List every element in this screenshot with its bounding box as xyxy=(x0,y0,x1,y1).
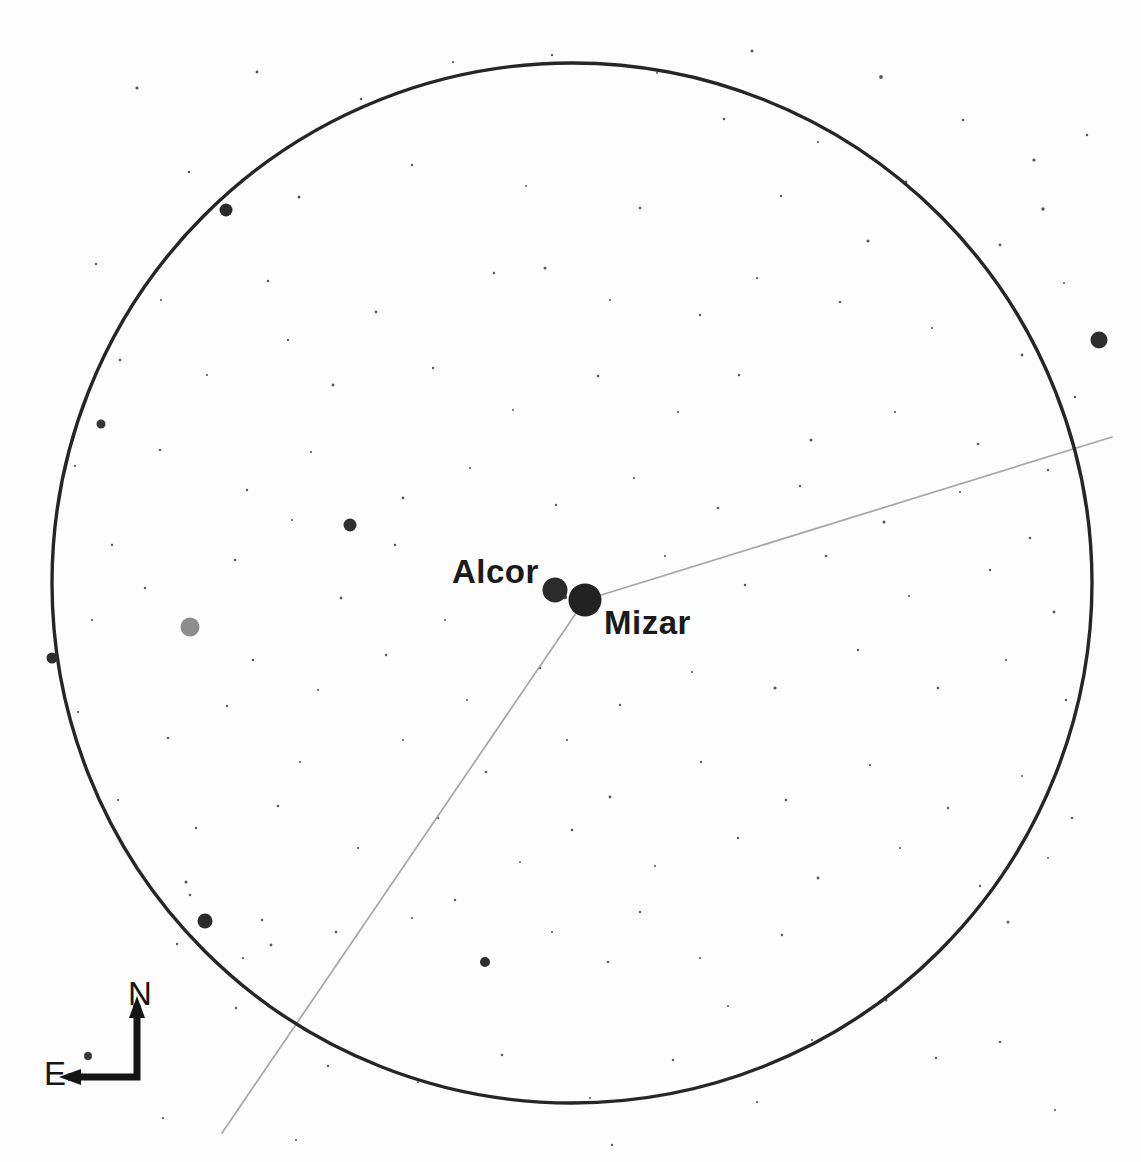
background-star xyxy=(611,1144,613,1146)
background-star xyxy=(937,687,940,690)
background-star xyxy=(751,50,754,53)
background-star xyxy=(979,885,981,887)
background-star xyxy=(512,409,514,411)
background-star xyxy=(619,704,621,706)
background-star xyxy=(781,934,783,936)
background-star xyxy=(327,1065,329,1067)
background-star xyxy=(375,311,378,314)
background-star xyxy=(810,439,813,442)
background-star xyxy=(159,449,162,452)
background-star xyxy=(699,314,701,316)
star-label-mizar: Mizar xyxy=(604,604,691,642)
background-star xyxy=(160,299,162,301)
background-star xyxy=(144,587,146,589)
background-star xyxy=(664,555,666,557)
constellation-line-segment xyxy=(585,437,1112,600)
named-star-layer xyxy=(543,578,602,617)
background-star xyxy=(691,671,693,673)
sky-field-svg xyxy=(0,0,1141,1162)
background-star xyxy=(959,491,961,493)
background-star xyxy=(167,737,170,740)
background-star xyxy=(501,1054,504,1057)
background-star xyxy=(1086,134,1088,136)
bright-star xyxy=(84,1052,92,1060)
background-star xyxy=(188,171,191,174)
star-label-alcor: Alcor xyxy=(452,553,539,591)
background-star xyxy=(931,327,933,329)
background-star xyxy=(869,764,871,766)
background-star xyxy=(454,899,456,901)
background-star xyxy=(633,477,635,479)
background-star xyxy=(206,374,208,376)
named-star-alcor-marker xyxy=(543,578,568,603)
background-star xyxy=(879,75,883,79)
bright-star-layer xyxy=(47,204,1108,1061)
background-star xyxy=(444,619,446,621)
background-star xyxy=(270,944,273,947)
named-star-mizar-marker xyxy=(569,584,602,617)
background-star xyxy=(256,71,259,74)
background-star xyxy=(607,961,610,964)
background-star xyxy=(135,86,138,89)
background-star xyxy=(609,299,611,301)
background-star xyxy=(469,467,471,469)
background-star xyxy=(551,54,553,56)
background-star xyxy=(677,411,679,413)
bright-star xyxy=(97,420,106,429)
background-star xyxy=(235,1007,237,1009)
background-star xyxy=(785,799,788,802)
background-star xyxy=(242,957,244,959)
background-star xyxy=(883,521,886,524)
background-star xyxy=(999,244,1002,247)
background-star xyxy=(780,195,782,197)
background-star xyxy=(656,72,658,74)
background-star xyxy=(226,705,228,707)
background-star xyxy=(295,1139,297,1141)
background-star xyxy=(551,931,553,933)
background-star xyxy=(310,451,312,453)
background-star xyxy=(261,919,263,921)
constellation-line-segment xyxy=(222,600,585,1133)
background-star xyxy=(899,847,901,849)
background-star xyxy=(989,569,991,571)
background-star xyxy=(317,689,319,691)
background-star xyxy=(1021,354,1024,357)
background-star xyxy=(91,619,93,621)
bright-star xyxy=(47,653,58,664)
field-circle-outline xyxy=(52,63,1092,1103)
background-star xyxy=(360,98,362,100)
background-star xyxy=(176,943,178,945)
background-star xyxy=(1063,282,1065,284)
background-star xyxy=(485,771,488,774)
background-star xyxy=(639,207,642,210)
background-star xyxy=(493,272,495,274)
background-star xyxy=(195,827,197,829)
background-star xyxy=(811,1039,813,1041)
background-star xyxy=(1047,857,1049,859)
background-star xyxy=(817,877,820,880)
bright-star xyxy=(220,204,233,217)
background-star xyxy=(1029,537,1032,540)
background-star xyxy=(908,595,910,597)
background-star xyxy=(639,911,641,913)
background-star xyxy=(825,555,828,558)
background-star xyxy=(332,384,335,387)
background-star xyxy=(756,277,758,279)
background-star xyxy=(555,504,557,506)
background-star xyxy=(1005,659,1007,661)
background-star xyxy=(839,301,842,304)
background-star xyxy=(385,654,387,656)
background-star xyxy=(291,519,293,521)
background-star xyxy=(277,805,280,808)
background-star xyxy=(452,61,454,63)
background-star xyxy=(287,339,289,341)
star-chart-canvas: Alcor Mizar N E xyxy=(0,0,1141,1162)
background-star xyxy=(857,649,859,651)
background-star xyxy=(654,865,656,867)
background-star xyxy=(544,267,547,270)
background-star xyxy=(466,699,468,701)
background-star xyxy=(1021,775,1023,777)
bright-star xyxy=(181,618,200,637)
background-star xyxy=(1053,611,1056,614)
background-star xyxy=(1054,1109,1056,1111)
